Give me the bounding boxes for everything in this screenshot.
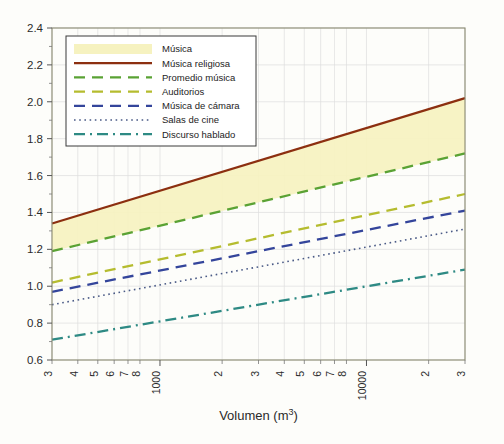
legend-label-2: Promedio música xyxy=(162,72,236,83)
legend-swatch-band xyxy=(74,44,152,54)
y-tick-label: 0.6 xyxy=(27,354,43,366)
y-tick-label: 1.0 xyxy=(27,280,43,292)
legend-label-1: Música religiosa xyxy=(162,58,231,69)
x-tick-label: 8 xyxy=(336,371,348,377)
legend-label-4: Música de cámara xyxy=(162,100,240,111)
x-tick-label: 8 xyxy=(130,371,142,377)
x-tick-label: 3 xyxy=(249,371,261,377)
legend-label-6: Discurso hablado xyxy=(162,129,235,140)
y-tick-label: 1.2 xyxy=(27,243,43,255)
x-tick-label: 6 xyxy=(104,371,116,377)
x-axis-title: Volumen (m3) xyxy=(219,407,298,423)
y-tick-label: 1.4 xyxy=(27,206,44,218)
y-tick-label: 2.2 xyxy=(27,59,43,71)
x-tick-label: 2 xyxy=(419,371,431,377)
y-tick-label: 1.6 xyxy=(27,170,43,182)
x-tick-label: 7 xyxy=(324,371,336,377)
x-tick-label: 4 xyxy=(274,371,286,377)
x-tick-label: 10000 xyxy=(356,371,368,400)
y-tick-label: 1.8 xyxy=(27,133,43,145)
legend-label-0: Música xyxy=(162,43,193,54)
x-tick-label: 7 xyxy=(118,371,130,377)
y-tick-label: 0.8 xyxy=(27,317,43,329)
x-tick-label: 5 xyxy=(88,371,100,377)
x-tick-label: 4 xyxy=(68,371,80,377)
x-tick-label: 3 xyxy=(42,371,54,377)
x-tick-label: 6 xyxy=(311,371,323,377)
chart-figure: 2.42.22.01.81.61.41.21.00.80.63456781000… xyxy=(0,0,504,444)
chart-svg: 2.42.22.01.81.61.41.21.00.80.63456781000… xyxy=(0,0,504,444)
legend-label-3: Auditorios xyxy=(162,86,204,97)
x-tick-label: 5 xyxy=(294,371,306,377)
x-tick-label: 2 xyxy=(212,371,224,377)
x-tick-label: 3 xyxy=(455,371,467,377)
legend-label-5: Salas de cine xyxy=(162,114,219,125)
x-tick-label: 1000 xyxy=(150,371,162,395)
y-tick-label: 2.0 xyxy=(27,96,43,108)
y-tick-label: 2.4 xyxy=(27,22,44,34)
